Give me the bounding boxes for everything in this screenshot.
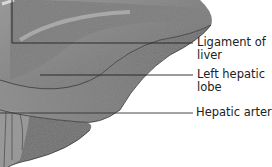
label-line: Hepatic artery xyxy=(196,106,272,119)
label-line: lobe xyxy=(197,81,265,94)
label-line: liver xyxy=(197,49,266,62)
label-hepatic-artery: Hepatic artery xyxy=(196,106,272,119)
label-ligament-of-liver: Ligament of liver xyxy=(197,36,266,62)
liver-body xyxy=(0,0,212,167)
label-left-hepatic-lobe: Left hepatic lobe xyxy=(197,68,265,94)
liver-diagram: Ligament of liver Left hepatic lobe Hepa… xyxy=(0,0,272,167)
